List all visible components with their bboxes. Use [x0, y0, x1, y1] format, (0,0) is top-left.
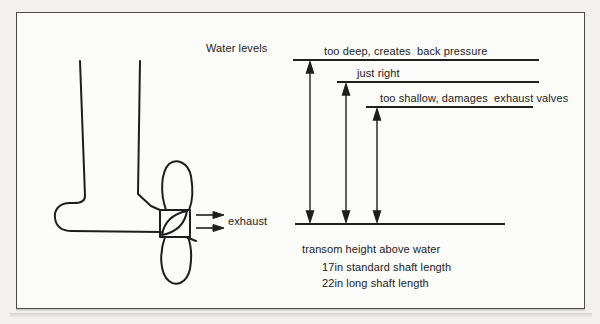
exhaust-arrow-top-head: [213, 212, 224, 219]
propeller-blade-diagonal: [162, 211, 187, 235]
motor-left-outline: [55, 61, 161, 232]
water-level-label-too-deep: too deep, creates back pressure: [324, 45, 487, 58]
transom-height-label: transom height above water: [302, 243, 440, 256]
shaft-length-note-standard: 17in standard shaft length: [322, 261, 451, 274]
exhaust-label: exhaust: [228, 215, 267, 228]
figure-canvas: Water levels too deep, creates back pres…: [0, 0, 600, 324]
water-level-label-just-right: just right: [357, 67, 400, 80]
water-levels-title: Water levels: [206, 42, 267, 55]
depth-arrow-1-head-top: [307, 62, 314, 73]
depth-arrow-3-head-bottom: [374, 211, 381, 222]
exhaust-arrow-bottom-head: [213, 225, 224, 232]
outboard-motor-drawing: [55, 61, 196, 284]
propeller-blade-upper: [162, 161, 192, 210]
shaft-length-note-long: 22in long shaft length: [322, 277, 429, 290]
diagram-drawing: [0, 0, 600, 324]
depth-arrows: [307, 62, 381, 222]
depth-arrow-3-head-top: [374, 109, 381, 120]
hub-corner-stroke: [186, 237, 196, 241]
exhaust-arrows: [196, 212, 224, 232]
water-level-label-too-shallow: too shallow, damages exhaust valves: [380, 92, 568, 105]
depth-arrow-2-head-bottom: [343, 211, 350, 222]
depth-arrow-2-head-top: [343, 84, 350, 95]
water-level-lines: [293, 60, 539, 224]
motor-right-outline: [138, 61, 160, 210]
propeller-blade-lower: [161, 237, 191, 284]
depth-arrow-1-head-bottom: [307, 211, 314, 222]
